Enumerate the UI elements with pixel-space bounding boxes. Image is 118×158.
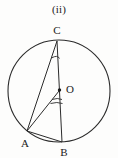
central-angle-double-arc-at-o-outer bbox=[51, 103, 63, 104]
chord-a-c bbox=[27, 41, 57, 131]
vertex-label-b: B bbox=[60, 146, 67, 158]
vertex-label-c: C bbox=[53, 24, 60, 36]
radius-a-o bbox=[27, 91, 59, 131]
center-label-o: O bbox=[66, 83, 74, 95]
vertex-label-a: A bbox=[21, 137, 29, 149]
central-angle-double-arc-at-o-inner bbox=[52, 99, 62, 100]
geometry-canvas: C A B O bbox=[0, 0, 118, 158]
geometry-figure: (ii) C A B O bbox=[0, 0, 118, 158]
center-point-dot bbox=[58, 88, 61, 91]
